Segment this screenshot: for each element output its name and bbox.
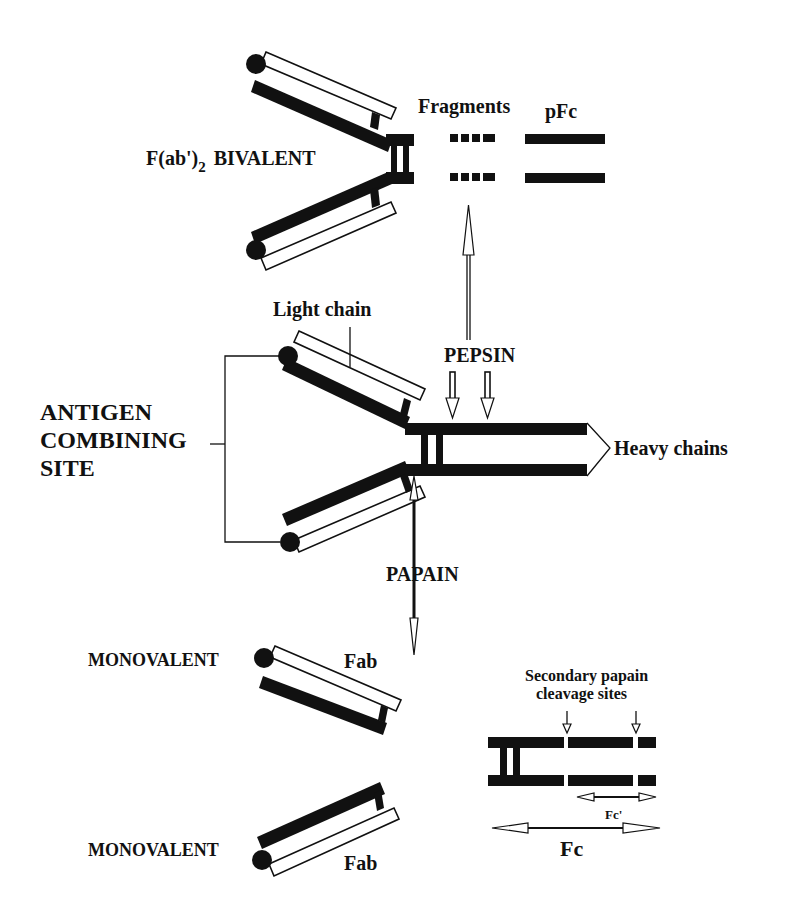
heavy-chain-segment bbox=[259, 676, 387, 735]
fab-fragment-top bbox=[254, 646, 401, 735]
pfc-label: pFc bbox=[545, 100, 577, 123]
hinge-bond bbox=[436, 435, 443, 464]
pfc-bar-bottom bbox=[525, 173, 605, 183]
pepsin-product-arrow-icon bbox=[463, 205, 474, 340]
heavy-chain-bottom bbox=[405, 464, 587, 476]
heavy-chains-label: Heavy chains bbox=[614, 437, 728, 460]
fc-bar-top-3 bbox=[638, 737, 656, 748]
light-chain-segment bbox=[294, 486, 425, 552]
pepsin-cleavage-arrow-icon bbox=[446, 372, 459, 418]
antigen-site-dot bbox=[254, 648, 274, 668]
fc-bar-bottom-1 bbox=[488, 775, 564, 786]
fc-span-arrow-icon bbox=[492, 823, 660, 833]
light-chain-segment bbox=[261, 52, 396, 119]
pepsin-label: PEPSIN bbox=[444, 344, 516, 366]
light-chain-label: Light chain bbox=[273, 298, 371, 321]
hinge-top bbox=[386, 134, 414, 146]
monovalent-label-bottom: MONOVALENT bbox=[88, 840, 219, 860]
fab2-lower-arm bbox=[246, 172, 396, 270]
antigen-site-dot bbox=[278, 346, 298, 366]
lower-arm bbox=[280, 461, 425, 552]
antigen-label-line1: ANTIGEN bbox=[40, 399, 153, 425]
fragments-label: Fragments bbox=[418, 95, 510, 118]
fc-prime-span-arrow-icon bbox=[577, 793, 656, 801]
disulfide-bond bbox=[370, 112, 380, 130]
light-chain-segment bbox=[261, 202, 396, 270]
fab-label-bottom: Fab bbox=[344, 852, 377, 874]
fc-bar-top-1 bbox=[488, 737, 564, 748]
intact-antibody bbox=[278, 331, 587, 552]
fab2-upper-arm bbox=[246, 52, 396, 152]
fc-hinge-bond bbox=[500, 748, 507, 775]
antigen-label-line2: COMBINING bbox=[40, 427, 187, 453]
upper-arm bbox=[278, 331, 425, 429]
pepsin-cleavage-arrow-icon bbox=[481, 372, 494, 418]
antigen-site-bracket bbox=[210, 356, 280, 542]
hinge-bond bbox=[421, 435, 428, 464]
antigen-site-dot bbox=[252, 850, 272, 870]
fc-bar-top-2 bbox=[568, 737, 633, 748]
heavy-chain-segment bbox=[257, 782, 385, 849]
secondary-cleavage-label-line2: cleavage sites bbox=[536, 685, 627, 703]
fc-label: Fc bbox=[560, 836, 583, 861]
fc-fragment bbox=[488, 737, 656, 786]
fab2-label: F(ab')2BIVALENT bbox=[146, 147, 316, 175]
monovalent-label-top: MONOVALENT bbox=[88, 650, 219, 670]
disulfide-bond bbox=[378, 705, 388, 723]
fc-bar-bottom-2 bbox=[568, 775, 633, 786]
fab-label-top: Fab bbox=[344, 650, 377, 672]
light-chain-segment bbox=[294, 331, 425, 400]
heavy-chain-segment bbox=[282, 358, 410, 429]
immunoglobulin-cleavage-diagram: F(ab')2BIVALENT Fragments pFc Light chai… bbox=[0, 0, 793, 898]
heavy-chain-segment bbox=[282, 461, 410, 526]
small-fragments bbox=[450, 134, 495, 181]
secondary-cleavage-arrow-icon bbox=[632, 711, 640, 733]
hinge-bottom bbox=[386, 172, 414, 184]
fc-hinge-bond bbox=[513, 748, 520, 775]
hinge-bond bbox=[403, 146, 409, 172]
papain-label: PAPAIN bbox=[386, 563, 459, 585]
disulfide-bond bbox=[400, 398, 411, 417]
hinge-bond bbox=[391, 146, 397, 172]
antigen-site-dot bbox=[246, 240, 266, 260]
secondary-cleavage-label-line1: Secondary papain bbox=[525, 667, 648, 685]
fc-prime-label: Fc' bbox=[605, 807, 622, 822]
heavy-chain-segment bbox=[251, 80, 392, 152]
antigen-site-dot bbox=[246, 54, 266, 74]
pfc-bar-top bbox=[525, 134, 605, 144]
heavy-chains-pointer bbox=[587, 423, 610, 476]
light-chain-segment bbox=[269, 808, 399, 876]
fc-bar-bottom-3 bbox=[638, 775, 656, 786]
heavy-chain-top bbox=[405, 423, 587, 435]
antigen-label-line3: SITE bbox=[40, 455, 95, 481]
secondary-cleavage-arrow-icon bbox=[563, 711, 571, 733]
disulfide-bond bbox=[370, 187, 380, 208]
antigen-site-dot bbox=[280, 532, 300, 552]
light-chain-segment bbox=[270, 646, 401, 711]
